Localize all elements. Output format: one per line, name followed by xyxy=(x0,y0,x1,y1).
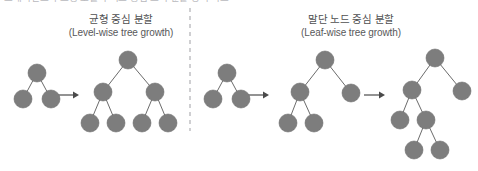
arrow-level-wise-step-1 xyxy=(58,92,79,99)
tree-leaf-wise-step-1-node xyxy=(204,90,222,108)
tree-leaf-wise-step-3-node xyxy=(417,111,435,129)
tree-level-wise-after-node xyxy=(133,114,151,132)
tree-level-wise-after-node xyxy=(94,83,112,101)
tree-nodes-layer xyxy=(14,49,471,159)
tree-leaf-wise-step-2-node xyxy=(342,84,360,102)
tree-leaf-wise-step-2-node xyxy=(279,114,297,132)
tree-level-wise-after-node xyxy=(146,83,164,101)
tree-level-wise-before-node xyxy=(42,90,60,108)
tree-level-wise-after-node xyxy=(107,114,125,132)
tree-leaf-wise-step-3-node xyxy=(431,141,449,159)
tree-level-wise-after-node xyxy=(159,114,177,132)
tree-leaf-wise-step-2-node xyxy=(291,83,309,101)
tree-leaf-wise-step-3-node xyxy=(453,82,471,100)
arrow-leaf-wise-step-1 xyxy=(248,92,269,99)
tree-level-wise-before-node xyxy=(28,64,46,82)
tree-growth-comparison-figure: 그래디언트 부스팅 모델의 리프 중심 트리 분할 방식 비교 균형 중심 분할… xyxy=(0,0,478,171)
tree-leaf-wise-step-3-node xyxy=(391,111,409,129)
tree-level-wise-before-node xyxy=(14,90,32,108)
tree-leaf-wise-step-2-node xyxy=(305,114,323,132)
tree-leaf-wise-step-2-node xyxy=(316,51,334,69)
arrow-leaf-wise-step-2 xyxy=(364,92,385,99)
tree-leaf-wise-step-1-node xyxy=(232,90,250,108)
tree-leaf-wise-step-3-node xyxy=(405,141,423,159)
tree-leaf-wise-step-3-node xyxy=(426,49,444,67)
tree-level-wise-after-node xyxy=(81,114,99,132)
tree-level-wise-after-node xyxy=(119,51,137,69)
tree-leaf-wise-step-1-node xyxy=(218,64,236,82)
tree-leaf-wise-step-3-node xyxy=(403,81,421,99)
tree-diagram-canvas xyxy=(0,0,478,171)
